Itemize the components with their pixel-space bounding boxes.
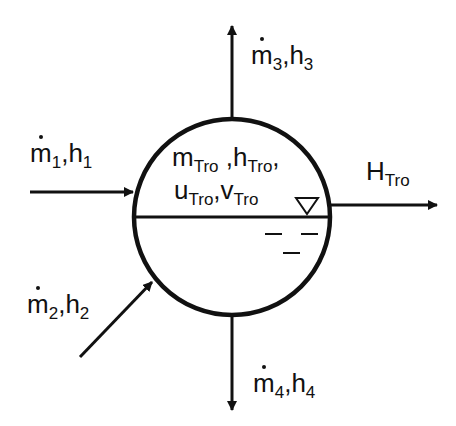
stream-2-arrow <box>80 282 152 357</box>
mass-flow-symbol: m <box>253 370 275 396</box>
vessel-state-line-1: mTro ,hTro, <box>172 144 280 175</box>
enthalpy-output-label: HTro <box>366 158 410 189</box>
stream-1-label: m1,h1 <box>30 140 92 171</box>
stream-2-label: m2,h2 <box>27 291 89 322</box>
stream-4-label: m4,h4 <box>253 370 315 401</box>
mass-flow-symbol: m <box>27 291 49 317</box>
vessel-state-line-2: uTro,vTro <box>174 177 258 208</box>
liquid-level-triangle-icon <box>296 198 318 214</box>
stream-3-label: m3,h3 <box>251 42 313 73</box>
mass-flow-symbol: m <box>251 42 273 68</box>
mass-flow-symbol: m <box>30 140 52 166</box>
diagram-canvas <box>0 0 456 426</box>
